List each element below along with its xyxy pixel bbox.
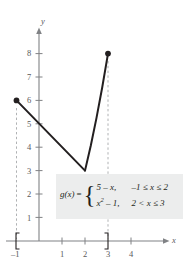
piecewise-function-figure: y x –1 1 2 3 4 1 2 3 4 5 6 7 8 g(x) = { … <box>0 0 183 272</box>
x-axis-arrow <box>163 238 170 244</box>
y-tick-label-3: 3 <box>27 167 31 176</box>
curve-segment-quadratic <box>85 54 108 171</box>
y-axis-label: y <box>41 17 45 26</box>
formula-case-1-condition: –1 ≤ x ≤ 2 <box>129 181 168 195</box>
formula-case-row-1: 5 – x, –1 ≤ x ≤ 2 <box>97 181 168 195</box>
y-axis-arrow <box>36 28 42 35</box>
endpoint-dot-neg1-6 <box>14 98 20 104</box>
formula-function-name: g(x) <box>60 188 75 202</box>
y-tick-label-1: 1 <box>27 214 31 223</box>
x-tick-label-2: 2 <box>83 250 87 259</box>
endpoint-dot-3-8 <box>105 51 111 57</box>
x-tick-label-3: 3 <box>106 250 110 259</box>
y-tick-label-7: 7 <box>27 73 31 82</box>
y-tick-label-5: 5 <box>27 120 31 129</box>
formula-case-row-2: x2 – 1, 2 < x ≤ 3 <box>97 195 168 209</box>
formula-case-2-expression: x2 – 1, <box>97 195 129 211</box>
formula-brace: { <box>84 184 96 205</box>
graph-plot <box>0 0 183 272</box>
y-tick-label-4: 4 <box>27 143 31 152</box>
formula-case-1-expression: 5 – x, <box>97 181 129 195</box>
formula-case-2-rest: – 1, <box>104 198 120 208</box>
formula-equals-sign: = <box>77 188 82 202</box>
piecewise-formula: g(x) = { 5 – x, –1 ≤ x ≤ 2 x2 – 1, 2 < x… <box>60 181 168 209</box>
x-tick-label-4: 4 <box>129 250 133 259</box>
y-tick-label-2: 2 <box>27 190 31 199</box>
y-tick-label-8: 8 <box>27 49 31 58</box>
formula-cases: 5 – x, –1 ≤ x ≤ 2 x2 – 1, 2 < x ≤ 3 <box>97 181 168 209</box>
x-tick-label-neg1: –1 <box>11 250 20 259</box>
y-tick-label-6: 6 <box>27 96 31 105</box>
x-axis-label: x <box>172 236 176 245</box>
curve-segment-linear <box>17 100 86 170</box>
x-tick-label-1: 1 <box>60 250 64 259</box>
formula-case-2-condition: 2 < x ≤ 3 <box>129 197 165 211</box>
